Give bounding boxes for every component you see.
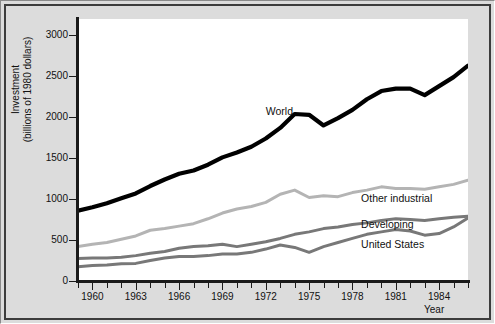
- x-tick-mark: [439, 283, 440, 290]
- x-tick-mark: [324, 283, 325, 288]
- y-tick-label: 0: [34, 276, 68, 286]
- series-label-world: World: [266, 106, 293, 117]
- x-tick-mark: [136, 283, 137, 290]
- x-tick-mark: [237, 283, 238, 288]
- x-axis-title: Year: [424, 304, 444, 315]
- y-axis-title: Investment (billions of 1980 dollars): [10, 15, 33, 165]
- series-label-united-states: United States: [361, 239, 424, 250]
- figure-panel: 300025002000150010005000 196019631966196…: [0, 0, 495, 324]
- y-tick-label-wrap: 1000: [6, 194, 78, 204]
- y-tick-label: 3000: [34, 30, 68, 40]
- y-tick-label: 1500: [34, 153, 68, 163]
- x-tick-mark: [295, 283, 296, 288]
- x-tick-mark: [121, 283, 122, 288]
- series-paths: [78, 66, 468, 267]
- x-tick-mark: [92, 283, 93, 290]
- x-tick-mark: [107, 283, 108, 288]
- x-tick-mark: [208, 283, 209, 288]
- x-tick-mark: [425, 283, 426, 288]
- x-tick-label: 1972: [246, 291, 286, 302]
- x-tick-mark: [194, 283, 195, 288]
- x-tick-mark: [251, 283, 252, 288]
- x-tick-mark: [454, 283, 455, 288]
- x-tick-mark: [179, 283, 180, 290]
- x-tick-label: 1960: [72, 291, 112, 302]
- x-tick-label: 1978: [332, 291, 372, 302]
- y-tick-label: 500: [34, 235, 68, 245]
- x-tick-mark: [381, 283, 382, 288]
- x-tick-mark: [165, 283, 166, 288]
- y-tick-label: 2500: [34, 71, 68, 81]
- x-tick-label: 1984: [419, 291, 459, 302]
- x-tick-mark: [78, 283, 79, 288]
- x-tick-label: 1969: [202, 291, 242, 302]
- y-tick-label: 2000: [34, 112, 68, 122]
- x-tick-label: 1981: [376, 291, 416, 302]
- x-tick-mark: [266, 283, 267, 290]
- x-tick-mark: [222, 283, 223, 290]
- x-tick-label: 1963: [116, 291, 156, 302]
- x-tick-mark: [338, 283, 339, 288]
- series-label-developing: Developing: [361, 219, 414, 230]
- series-line-other-industrial: [78, 180, 468, 246]
- y-tick-label: 1000: [34, 194, 68, 204]
- x-tick-mark: [367, 283, 368, 288]
- series-label-other-industrial: Other industrial: [361, 193, 432, 204]
- x-tick-mark: [468, 283, 469, 288]
- x-tick-label: 1966: [159, 291, 199, 302]
- y-tick-label-wrap: 500: [6, 235, 78, 245]
- x-tick-mark: [280, 283, 281, 288]
- figure-frame: 300025002000150010005000 196019631966196…: [4, 4, 491, 320]
- x-tick-mark: [309, 283, 310, 290]
- x-tick-mark: [352, 283, 353, 290]
- x-tick-mark: [150, 283, 151, 288]
- x-tick-mark: [410, 283, 411, 288]
- x-tick-mark: [396, 283, 397, 290]
- x-tick-label: 1975: [289, 291, 329, 302]
- y-tick-label-wrap: 0: [6, 276, 78, 286]
